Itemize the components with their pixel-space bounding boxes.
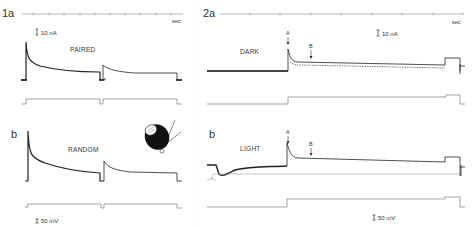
current-scale-label-2a: 10 nA: [382, 31, 398, 37]
panel-1b: b RANDOM 50 mV: [11, 120, 182, 224]
time-axis-2a: [220, 13, 463, 16]
voltage-scale-bar-1b: [36, 219, 39, 223]
marker-a-2b: A: [286, 129, 290, 144]
marker-a-2a: A: [286, 30, 290, 45]
voltage-scale-label-1b: 50 mV: [41, 218, 58, 224]
condition-label-light: LIGHT: [240, 145, 261, 152]
cell-electrodes-icon: [140, 120, 181, 155]
panel-1a: 1a sec 10 nA PAIRED: [2, 7, 183, 104]
panel-label-1a: 1a: [2, 7, 15, 19]
svg-text:B: B: [309, 43, 313, 49]
current-trace-1a: [21, 42, 182, 80]
voltage-scale-label-2b: 50 mV: [378, 215, 395, 221]
voltage-trace-2b: [207, 197, 465, 207]
voltage-trace-1a: [21, 99, 182, 104]
voltage-trace-1b: [25, 204, 182, 208]
panel-label-1b: b: [11, 128, 17, 140]
time-unit-1a: sec: [172, 18, 181, 24]
panel-2b: b LIGHT A B 50 mV: [207, 128, 465, 221]
marker-b-2a: B: [309, 43, 313, 59]
time-axis-1a: [22, 13, 183, 16]
condition-label-dark: DARK: [240, 48, 260, 55]
panel-label-2b: b: [209, 128, 215, 140]
current-scale-bar-1a: [36, 29, 39, 35]
voltage-trace-2a: [207, 95, 465, 104]
marker-b-2b: B: [309, 141, 313, 156]
svg-text:B: B: [309, 141, 313, 147]
voltage-scale-bar-2b: [373, 215, 376, 220]
current-scale-label-1a: 10 nA: [41, 30, 57, 36]
time-unit-2a: sec: [452, 19, 461, 25]
condition-label-random: RANDOM: [68, 146, 99, 153]
light-stimulus-trace-2b: [207, 174, 462, 180]
svg-text:A: A: [286, 30, 290, 36]
panel-label-2a: 2a: [203, 7, 216, 19]
figure-canvas: 1a sec 10 nA PAIRED b RANDOM: [0, 0, 476, 227]
panel-2a: 2a sec 10 nA DARK A B: [203, 7, 465, 104]
current-scale-bar-2a: [377, 30, 380, 36]
svg-text:A: A: [286, 129, 290, 135]
condition-label-paired: PAIRED: [70, 46, 96, 53]
